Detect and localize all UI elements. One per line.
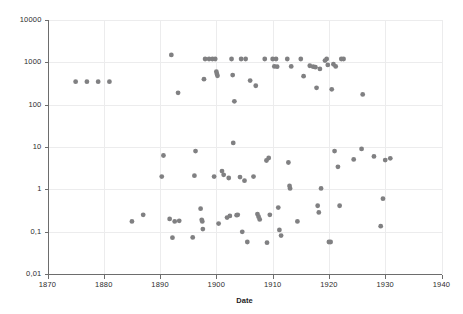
y-tick-label: 0,1 (0, 227, 42, 236)
x-tick-label: 1870 (28, 280, 68, 289)
data-points (73, 52, 392, 245)
y-tick-label: 100 (0, 100, 42, 109)
y-tick-label: 10000 (0, 15, 42, 24)
x-tick-label: 1920 (309, 280, 349, 289)
x-tick-label: 1880 (84, 280, 124, 289)
x-tick-label: 1890 (140, 280, 180, 289)
y-tick-label: 1000 (0, 57, 42, 66)
y-tick-label: 10 (0, 142, 42, 151)
plot-area (0, 0, 463, 314)
scatter-chart: 0,010,1110100100010000 18701880189019001… (0, 0, 463, 314)
x-tick-label: 1930 (365, 280, 405, 289)
x-tick-label: 1910 (253, 280, 293, 289)
x-tick-label: 1940 (422, 280, 462, 289)
y-tick-label: 0,01 (0, 269, 42, 278)
y-tick-label: 1 (0, 184, 42, 193)
x-tick-label: 1900 (196, 280, 236, 289)
x-axis-title: Date (205, 296, 285, 305)
